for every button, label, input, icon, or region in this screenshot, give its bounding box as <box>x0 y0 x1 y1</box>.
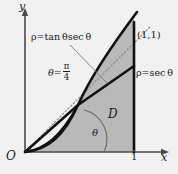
x-axis-label: x <box>161 152 167 163</box>
figure-canvas <box>0 0 178 174</box>
point-label-1-1: (1,1) <box>137 30 161 40</box>
ray-label-denominator: 4 <box>63 72 71 81</box>
curve-label-sec-theta: ρ=sec θ <box>136 68 173 78</box>
region-label-d: D <box>108 108 118 120</box>
y-axis-label: y <box>19 1 25 12</box>
ray-label-theta-pi-over-4: θ=π4 <box>48 62 71 81</box>
ray-label-prefix: θ= <box>48 67 62 78</box>
angle-label-theta: θ <box>92 128 98 138</box>
ray-label-numerator: π <box>63 62 71 72</box>
x-tick-label-1: 1 <box>131 152 137 162</box>
origin-label: O <box>6 150 16 162</box>
polar-region-figure: y x O 1 (1,1) D θ ρ=tan θsec θ ρ=sec θ θ… <box>0 0 178 174</box>
curve-label-tan-theta-sec-theta: ρ=tan θsec θ <box>31 32 91 42</box>
ray-label-fraction: π4 <box>63 62 71 81</box>
